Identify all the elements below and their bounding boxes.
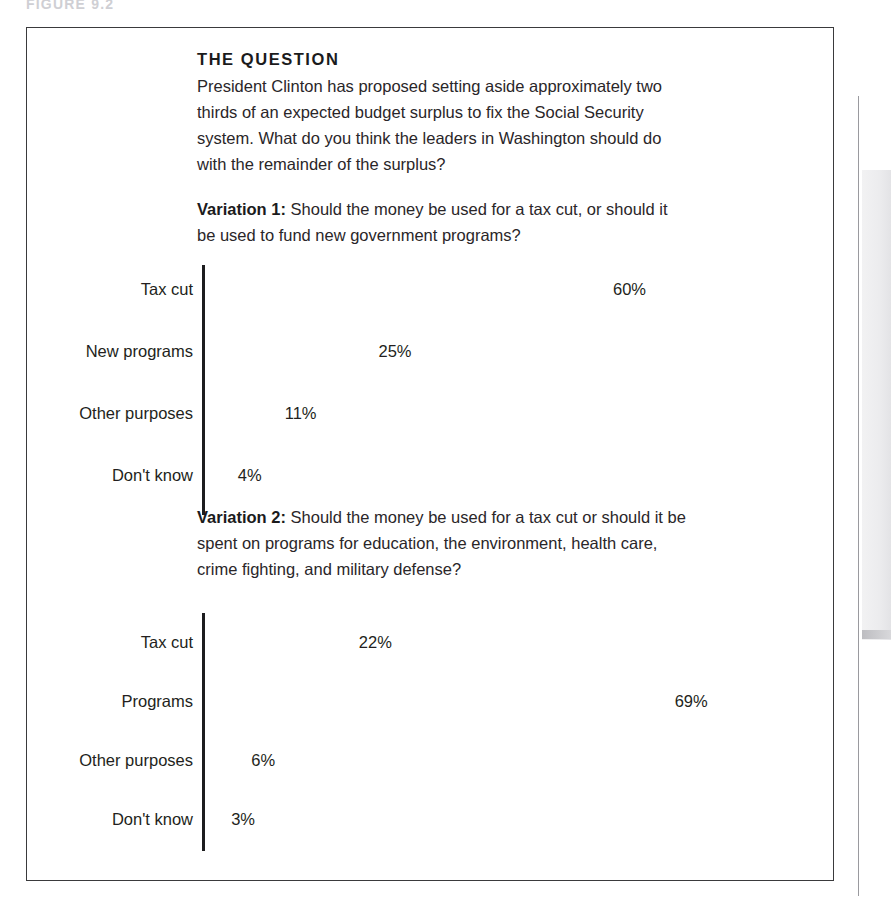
page-edge-nick xyxy=(862,630,891,639)
variation-1-label: Variation 1: xyxy=(197,200,286,218)
question-body-text: President Clinton has proposed setting a… xyxy=(197,73,689,177)
bar-category-label: Programs xyxy=(27,692,202,711)
bar-track: 6% xyxy=(202,751,833,770)
question-content: THE QUESTION President Clinton has propo… xyxy=(197,50,687,248)
bar-value-label: 60% xyxy=(604,280,646,299)
bar-row: Other purposes11% xyxy=(27,395,833,431)
figure-frame: THE QUESTION President Clinton has propo… xyxy=(26,27,834,881)
chart-variation-1: Tax cut60%New programs25%Other purposes1… xyxy=(27,265,833,515)
bar-category-label: Tax cut xyxy=(27,633,202,652)
bar-track: 4% xyxy=(202,466,833,485)
page-edge-shadow xyxy=(862,170,891,640)
bar-value-label: 69% xyxy=(666,692,708,711)
variation-1-prompt: Variation 1: Should the money be used fo… xyxy=(197,196,689,248)
bar-value-label: 6% xyxy=(242,751,275,770)
page-edge-line xyxy=(858,96,859,896)
bar-track: 22% xyxy=(202,633,833,652)
bar-value-label: 22% xyxy=(350,633,392,652)
chart-variation-2: Tax cut22%Programs69%Other purposes6%Don… xyxy=(27,613,833,851)
bar-track: 60% xyxy=(202,280,833,299)
bar-row: Don't know4% xyxy=(27,457,833,493)
bar-category-label: Don't know xyxy=(27,810,202,829)
bar-category-label: Don't know xyxy=(27,466,202,485)
bar-row: Tax cut22% xyxy=(27,625,833,660)
bar-category-label: New programs xyxy=(27,342,202,361)
bar-track: 25% xyxy=(202,342,833,361)
bar-value-label: 25% xyxy=(370,342,412,361)
bar-category-label: Other purposes xyxy=(27,751,202,770)
bar-row: Other purposes6% xyxy=(27,743,833,778)
bar-row: Don't know3% xyxy=(27,802,833,837)
page-title: THE QUESTION xyxy=(197,50,687,69)
variation-2-prompt: Variation 2: Should the money be used fo… xyxy=(197,504,689,582)
bar-track: 11% xyxy=(202,404,833,423)
bar-value-label: 3% xyxy=(222,810,255,829)
bar-row: New programs25% xyxy=(27,333,833,369)
bar-value-label: 4% xyxy=(229,466,262,485)
variation-2-content: Variation 2: Should the money be used fo… xyxy=(197,504,687,582)
bar-row: Programs69% xyxy=(27,684,833,719)
figure-number-caption: FIGURE 9.2 xyxy=(26,0,114,12)
bar-category-label: Tax cut xyxy=(27,280,202,299)
bar-track: 69% xyxy=(202,692,833,711)
variation-2-label: Variation 2: xyxy=(197,508,286,526)
bar-category-label: Other purposes xyxy=(27,404,202,423)
bar-track: 3% xyxy=(202,810,833,829)
bar-row: Tax cut60% xyxy=(27,271,833,307)
bar-value-label: 11% xyxy=(276,404,317,423)
